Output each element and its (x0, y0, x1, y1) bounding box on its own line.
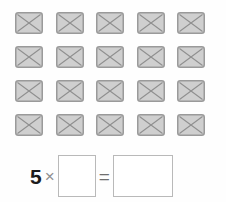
placeholder-icon-r1c5 (177, 12, 218, 46)
placeholder-icon-r4c2 (56, 114, 97, 148)
placeholder-icon-r4c4 (137, 114, 178, 148)
broken-image-icon (137, 114, 165, 136)
placeholder-icon-r2c2 (56, 46, 97, 80)
broken-image-icon (96, 46, 124, 68)
broken-image-icon (137, 12, 165, 34)
placeholder-icon-r3c5 (177, 80, 218, 114)
placeholder-icon-r2c5 (177, 46, 218, 80)
placeholder-icon-r3c2 (56, 80, 97, 114)
factor-answer-box[interactable] (58, 155, 96, 197)
broken-image-icon (177, 12, 205, 34)
icon-grid (15, 12, 218, 136)
broken-image-icon (56, 80, 84, 102)
icon-grid-row (15, 114, 218, 148)
icon-grid-row (15, 80, 218, 114)
placeholder-icon-r3c4 (137, 80, 178, 114)
worksheet-page: 5 × = (0, 0, 226, 202)
broken-image-icon (137, 46, 165, 68)
placeholder-icon-r2c4 (137, 46, 178, 80)
placeholder-icon-r4c1 (15, 114, 56, 148)
broken-image-icon (177, 80, 205, 102)
broken-image-icon (96, 80, 124, 102)
multiplication-sign: × (45, 168, 58, 185)
broken-image-icon (177, 46, 205, 68)
broken-image-icon (56, 46, 84, 68)
placeholder-icon-r1c1 (15, 12, 56, 46)
broken-image-icon (177, 114, 205, 136)
placeholder-icon-r4c5 (177, 114, 218, 148)
broken-image-icon (15, 114, 43, 136)
broken-image-icon (96, 114, 124, 136)
icon-grid-row (15, 12, 218, 46)
broken-image-icon (56, 12, 84, 34)
broken-image-icon (137, 80, 165, 102)
broken-image-icon (96, 12, 124, 34)
placeholder-icon-r4c3 (96, 114, 137, 148)
placeholder-icon-r2c3 (96, 46, 137, 80)
broken-image-icon (56, 114, 84, 136)
product-answer-box[interactable] (113, 155, 173, 197)
broken-image-icon (15, 12, 43, 34)
equals-sign: = (96, 167, 113, 186)
multiplier-value: 5 (30, 166, 45, 187)
placeholder-icon-r3c1 (15, 80, 56, 114)
broken-image-icon (15, 46, 43, 68)
placeholder-icon-r2c1 (15, 46, 56, 80)
equation-row: 5 × = (30, 152, 190, 200)
broken-image-icon (15, 80, 43, 102)
icon-grid-row (15, 46, 218, 80)
placeholder-icon-r1c3 (96, 12, 137, 46)
placeholder-icon-r1c4 (137, 12, 178, 46)
placeholder-icon-r1c2 (56, 12, 97, 46)
placeholder-icon-r3c3 (96, 80, 137, 114)
